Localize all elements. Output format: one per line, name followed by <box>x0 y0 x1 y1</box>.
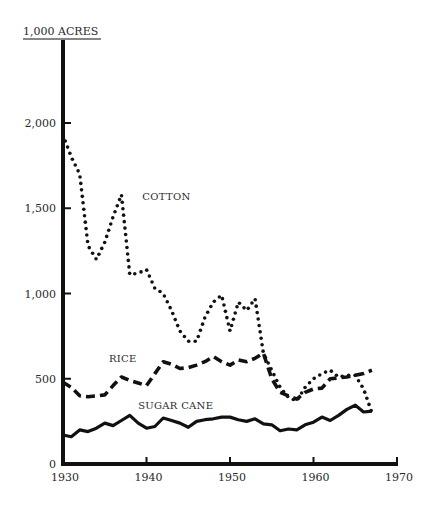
cotton-dot <box>227 322 231 326</box>
cotton-dot <box>127 259 131 263</box>
cotton-dot <box>139 270 143 274</box>
cotton-dot <box>150 280 154 284</box>
cotton-dot <box>193 339 197 343</box>
cotton-dot <box>258 330 262 334</box>
cotton-dot <box>312 377 316 381</box>
cotton-dot <box>165 300 169 304</box>
cotton-dot <box>235 305 239 309</box>
cotton-dot <box>367 403 371 407</box>
cotton-dot <box>272 373 276 377</box>
cotton-dot <box>124 233 128 237</box>
cotton-dot <box>73 163 77 167</box>
rice-label: RICE <box>109 353 137 364</box>
cotton-dot <box>203 316 207 320</box>
cotton-dot <box>124 239 128 243</box>
cotton-dot <box>201 322 205 326</box>
x-tick-label: 1950 <box>218 471 246 484</box>
cotton-dot <box>133 272 137 276</box>
cotton-dot <box>79 182 83 186</box>
cotton-dot <box>87 246 91 250</box>
cotton-dot <box>163 294 167 298</box>
cotton-dot <box>213 299 217 303</box>
cotton-dot <box>206 310 210 314</box>
cotton-dot <box>94 257 98 261</box>
cotton-dot <box>100 247 104 251</box>
cotton-dot <box>209 305 213 309</box>
cotton-dot <box>179 330 183 334</box>
cotton-dot <box>158 290 162 294</box>
cotton-dot <box>253 298 257 302</box>
sugar-cane-series <box>63 405 372 437</box>
cotton-dot <box>308 381 312 385</box>
y-axis-unit-label: 1,000 ACRES <box>23 25 98 38</box>
x-tick-label: 1940 <box>135 471 163 484</box>
cotton-dot <box>120 200 124 204</box>
cotton-dot <box>68 151 72 155</box>
cotton-dot <box>324 370 328 374</box>
cotton-dot <box>111 216 115 220</box>
series-group <box>61 133 373 437</box>
cotton-dot <box>63 139 67 143</box>
cotton-dot <box>127 265 131 269</box>
x-tick-label: 1960 <box>302 471 330 484</box>
y-tick-label: 500 <box>35 373 56 386</box>
cotton-dot <box>148 274 152 278</box>
cotton-dot <box>91 251 95 255</box>
cotton-dot <box>230 324 234 328</box>
cotton-dot <box>365 396 369 400</box>
cotton-dot <box>318 373 322 377</box>
x-tick-label: 1930 <box>51 471 79 484</box>
cotton-dot <box>261 349 265 353</box>
cotton-dot <box>363 390 367 394</box>
cotton-dot <box>80 195 84 199</box>
cotton-dot <box>225 316 229 320</box>
cotton-dot <box>85 233 89 237</box>
cotton-dot <box>228 329 232 333</box>
cotton-dot <box>176 324 180 328</box>
cotton-dot <box>221 297 225 301</box>
cotton-dot <box>232 317 236 321</box>
cotton-dot <box>66 145 70 149</box>
cotton-dot <box>233 311 237 315</box>
cotton-dot <box>224 310 228 314</box>
cotton-dot <box>83 220 87 224</box>
cotton-dot <box>300 391 304 395</box>
cotton-dot <box>238 301 242 305</box>
axes: 1,000 ACRES05001,0001,5002,0001930194019… <box>23 25 413 484</box>
cotton-dot <box>256 317 260 321</box>
sugar-cane-line <box>63 405 372 437</box>
cotton-dot <box>260 343 264 347</box>
cotton-dot <box>171 312 175 316</box>
cotton-dot <box>259 336 263 340</box>
chart: 1,000 ACRES05001,0001,5002,0001930194019… <box>0 0 430 508</box>
cotton-dot <box>330 369 334 373</box>
y-tick-label: 1,000 <box>25 288 57 301</box>
sugar-cane-label: SUGAR CANE <box>138 400 213 411</box>
cotton-dot <box>125 246 129 250</box>
cotton-dot <box>86 240 90 244</box>
cotton-dot <box>123 226 127 230</box>
cotton-dot <box>357 379 361 383</box>
cotton-dot <box>168 306 172 310</box>
x-tick-label: 1970 <box>385 471 413 484</box>
cotton-dot <box>115 204 119 208</box>
cotton-dot <box>183 335 187 339</box>
cotton-dot <box>97 252 101 256</box>
cotton-dot <box>246 307 250 311</box>
cotton-dot <box>84 227 88 231</box>
cotton-dot <box>121 207 125 211</box>
cotton-label: COTTON <box>142 191 190 202</box>
y-tick-label: 0 <box>49 458 56 471</box>
cotton-dot <box>81 201 85 205</box>
cotton-dot <box>254 304 258 308</box>
cotton-dot <box>118 198 122 202</box>
cotton-dot <box>109 222 113 226</box>
cotton-dot <box>257 324 261 328</box>
cotton-dot <box>303 386 307 390</box>
y-tick-label: 2,000 <box>25 117 57 130</box>
cotton-dot <box>196 335 200 339</box>
cotton-dot <box>71 157 75 161</box>
cotton-dot <box>61 133 65 137</box>
cotton-dot <box>83 214 87 218</box>
cotton-dot <box>78 175 82 179</box>
